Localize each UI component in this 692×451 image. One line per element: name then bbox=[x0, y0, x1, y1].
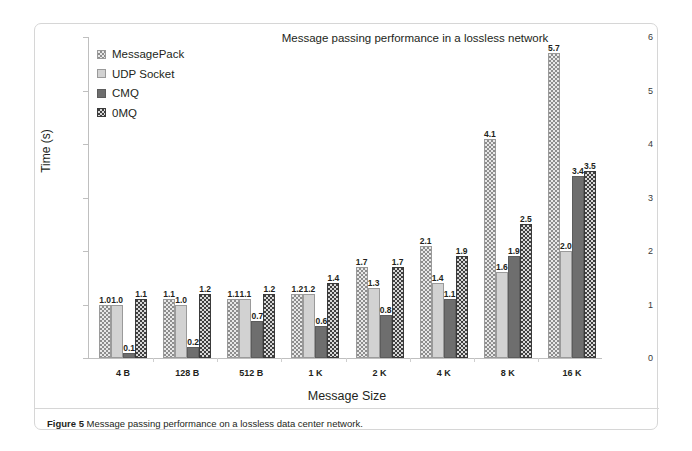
y-tick-mark bbox=[83, 358, 88, 359]
x-tick-label: 8 K bbox=[501, 368, 515, 378]
bar-value-label: 1.4 bbox=[328, 273, 340, 283]
x-tick-label: 4 B bbox=[116, 368, 130, 378]
bar[interactable]: 1.0 bbox=[175, 305, 187, 359]
bar-value-label: 0.7 bbox=[251, 311, 263, 321]
bar-value-label: 1.1 bbox=[163, 289, 175, 299]
bar[interactable]: 1.9 bbox=[456, 256, 468, 358]
bar[interactable]: 1.2 bbox=[303, 294, 315, 358]
bar[interactable]: 2.1 bbox=[420, 246, 432, 358]
bar[interactable]: 0.7 bbox=[251, 321, 263, 358]
bar[interactable]: 1.2 bbox=[291, 294, 303, 358]
bar-value-label: 1.9 bbox=[456, 246, 468, 256]
y-tick-mark bbox=[83, 305, 88, 306]
x-tick-label: 16 K bbox=[562, 368, 581, 378]
figure-frame: Message passing performance in a lossles… bbox=[34, 23, 658, 430]
bar-value-label: 1.1 bbox=[135, 289, 147, 299]
bar-value-label: 4.1 bbox=[484, 129, 496, 139]
bar-group: 1.11.10.71.2 bbox=[227, 37, 275, 358]
bar[interactable]: 2.5 bbox=[520, 224, 532, 358]
bar[interactable]: 0.8 bbox=[380, 315, 392, 358]
bar-value-label: 2.0 bbox=[560, 241, 572, 251]
bar[interactable]: 1.7 bbox=[392, 267, 404, 358]
bar[interactable]: 3.5 bbox=[584, 171, 596, 358]
bar[interactable]: 3.4 bbox=[572, 176, 584, 358]
bars-container: 1.01.00.11.11.11.00.21.21.11.10.71.21.21… bbox=[89, 37, 602, 358]
x-tick-label: 2 K bbox=[373, 368, 387, 378]
chart-plot-area: Message passing performance in a lossles… bbox=[35, 24, 659, 396]
bar[interactable]: 0.1 bbox=[123, 353, 135, 358]
bar-group: 1.01.00.11.1 bbox=[99, 37, 147, 358]
y-tick-label: 3 bbox=[615, 193, 659, 203]
x-tick-mark bbox=[153, 358, 154, 362]
bar[interactable]: 1.2 bbox=[263, 294, 275, 358]
bar-value-label: 2.1 bbox=[420, 236, 432, 246]
bar[interactable]: 4.1 bbox=[484, 139, 496, 358]
y-tick-label: 4 bbox=[615, 139, 659, 149]
bar[interactable]: 1.6 bbox=[496, 272, 508, 358]
x-tick-label: 512 B bbox=[239, 368, 263, 378]
bar[interactable]: 1.1 bbox=[135, 299, 147, 358]
y-tick-mark bbox=[83, 251, 88, 252]
bar-value-label: 1.7 bbox=[392, 257, 404, 267]
y-tick-label: 6 bbox=[615, 32, 659, 42]
bar[interactable]: 2.0 bbox=[560, 251, 572, 358]
y-tick-mark bbox=[83, 198, 88, 199]
bar[interactable]: 1.1 bbox=[444, 299, 456, 358]
bar-value-label: 0.1 bbox=[123, 343, 135, 353]
x-tick-label: 128 B bbox=[175, 368, 199, 378]
bar-value-label: 1.0 bbox=[111, 295, 123, 305]
bar-value-label: 3.4 bbox=[572, 166, 584, 176]
bar-group: 1.71.30.81.7 bbox=[356, 37, 404, 358]
bar[interactable]: 1.0 bbox=[99, 305, 111, 359]
bar[interactable]: 1.7 bbox=[356, 267, 368, 358]
bar-group: 2.11.41.11.9 bbox=[420, 37, 468, 358]
bar-value-label: 1.1 bbox=[444, 289, 456, 299]
bar-value-label: 1.4 bbox=[432, 273, 444, 283]
bar-value-label: 1.3 bbox=[368, 278, 380, 288]
bar[interactable]: 1.1 bbox=[163, 299, 175, 358]
bar[interactable]: 1.4 bbox=[327, 283, 339, 358]
bar-value-label: 3.5 bbox=[584, 161, 596, 171]
bar-group: 1.21.20.61.4 bbox=[291, 37, 339, 358]
figure-caption-label: Figure 5 bbox=[47, 418, 84, 429]
x-axis-title: Message Size bbox=[35, 389, 659, 403]
bar-value-label: 1.9 bbox=[508, 246, 520, 256]
bar-value-label: 1.6 bbox=[496, 262, 508, 272]
bar-value-label: 0.8 bbox=[380, 305, 392, 315]
bar-group: 5.72.03.43.5 bbox=[548, 37, 596, 358]
bar-value-label: 1.0 bbox=[175, 295, 187, 305]
bar-value-label: 0.6 bbox=[316, 316, 328, 326]
bar-value-label: 0.2 bbox=[187, 337, 199, 347]
bar-value-label: 1.0 bbox=[99, 295, 111, 305]
bar[interactable]: 1.9 bbox=[508, 256, 520, 358]
y-tick-mark bbox=[83, 37, 88, 38]
y-tick-label: 0 bbox=[615, 353, 659, 363]
figure-caption: Figure 5 Message passing performance on … bbox=[35, 408, 659, 429]
bar[interactable]: 5.7 bbox=[548, 53, 560, 358]
bar[interactable]: 1.3 bbox=[368, 288, 380, 358]
figure-caption-text: Message passing performance on a lossles… bbox=[87, 418, 363, 429]
bar[interactable]: 1.0 bbox=[111, 305, 123, 359]
x-tick-label: 1 K bbox=[308, 368, 322, 378]
bar[interactable]: 1.1 bbox=[239, 299, 251, 358]
bar[interactable]: 1.4 bbox=[432, 283, 444, 358]
bar-group: 1.11.00.21.2 bbox=[163, 37, 211, 358]
bar-value-label: 1.2 bbox=[304, 284, 316, 294]
y-tick-label: 2 bbox=[615, 246, 659, 256]
x-tick-label: 4 K bbox=[437, 368, 451, 378]
bar-value-label: 1.1 bbox=[239, 289, 251, 299]
bar-value-label: 1.2 bbox=[263, 284, 275, 294]
y-tick-label: 5 bbox=[615, 86, 659, 96]
x-tick-mark bbox=[410, 358, 411, 362]
bar-group: 4.11.61.92.5 bbox=[484, 37, 532, 358]
y-tick-mark bbox=[83, 91, 88, 92]
x-tick-mark bbox=[346, 358, 347, 362]
bar-value-label: 1.2 bbox=[292, 284, 304, 294]
bar[interactable]: 0.6 bbox=[315, 326, 327, 358]
bar-value-label: 2.5 bbox=[520, 214, 532, 224]
bar[interactable]: 1.2 bbox=[199, 294, 211, 358]
y-tick-mark bbox=[83, 144, 88, 145]
bar-value-label: 5.7 bbox=[548, 43, 560, 53]
bar[interactable]: 0.2 bbox=[187, 347, 199, 358]
bar[interactable]: 1.1 bbox=[227, 299, 239, 358]
